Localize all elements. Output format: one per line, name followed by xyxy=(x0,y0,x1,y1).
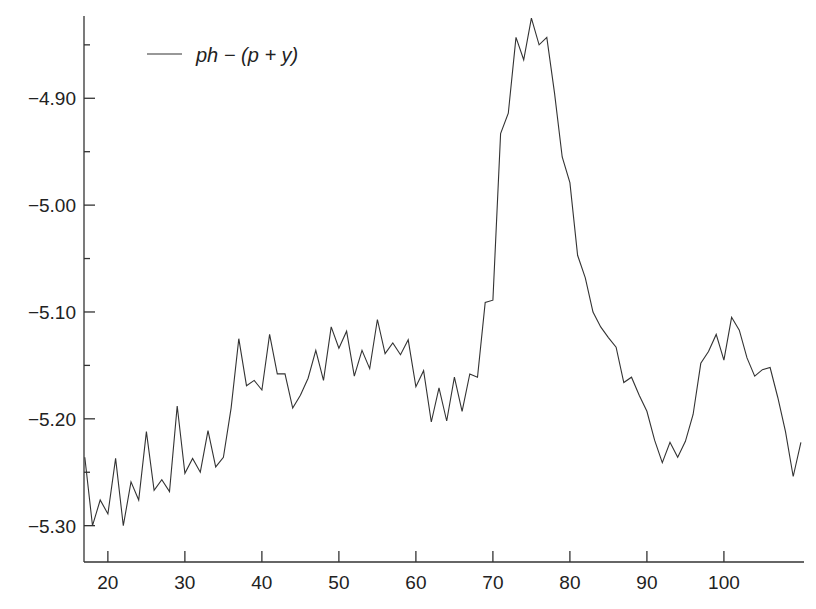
y-tick-label: −5.20 xyxy=(28,409,76,430)
y-axis: −4.90−5.00−5.10−5.20−5.30 xyxy=(28,16,95,562)
x-tick-label: 20 xyxy=(97,572,118,593)
x-tick-label: 80 xyxy=(559,572,580,593)
series-line xyxy=(85,18,801,526)
legend-label: ph − (p + y) xyxy=(195,44,298,66)
x-tick-label: 90 xyxy=(636,572,657,593)
y-tick-label: −5.10 xyxy=(28,302,76,323)
x-axis: 2030405060708090100 xyxy=(84,551,804,593)
y-tick-label: −4.90 xyxy=(28,88,76,109)
line-chart: −4.90−5.00−5.10−5.20−5.30 20304050607080… xyxy=(0,0,816,609)
x-tick-label: 70 xyxy=(482,572,503,593)
x-tick-label: 30 xyxy=(174,572,195,593)
x-tick-label: 50 xyxy=(328,572,349,593)
x-tick-label: 100 xyxy=(708,572,740,593)
plot-area xyxy=(85,18,801,526)
legend: ph − (p + y) xyxy=(147,44,298,66)
y-tick-label: −5.30 xyxy=(28,516,76,537)
x-tick-label: 40 xyxy=(251,572,272,593)
y-tick-label: −5.00 xyxy=(28,195,76,216)
x-tick-label: 60 xyxy=(405,572,426,593)
